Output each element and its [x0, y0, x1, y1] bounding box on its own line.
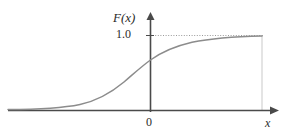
x-axis-label: x — [265, 117, 270, 129]
y-axis-label: F(x) — [113, 11, 135, 24]
cdf-curve — [8, 36, 262, 110]
origin-label: 0 — [146, 116, 152, 128]
cdf-figure: F(x) 1.0 0 x — [0, 0, 291, 135]
x-axis-arrowhead — [270, 107, 279, 115]
y-tick-label-one: 1.0 — [116, 28, 131, 40]
y-axis-arrowhead — [147, 12, 155, 20]
